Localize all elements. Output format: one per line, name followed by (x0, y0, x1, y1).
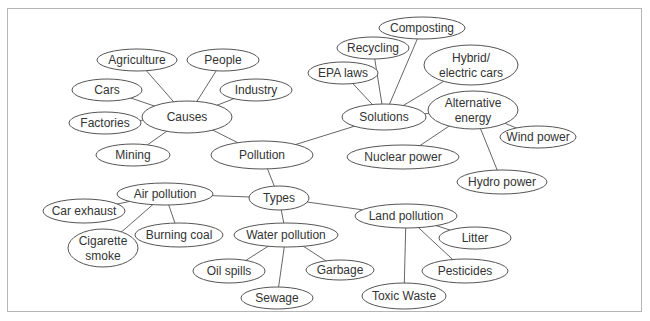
node-label: Pesticides (438, 264, 493, 278)
node-label: People (204, 53, 242, 67)
node-label: Solutions (359, 110, 408, 124)
node-epa-laws: EPA laws (308, 62, 378, 84)
node-toxic-waste: Toxic Waste (362, 283, 446, 309)
node-label: Wind power (506, 130, 569, 144)
node-label: Hydro power (468, 175, 536, 189)
node-label: Composting (390, 21, 454, 35)
node-label: Cigarette (79, 234, 128, 248)
node-causes: Causes (142, 101, 232, 133)
node-label: Sewage (255, 291, 299, 305)
node-label: Litter (462, 231, 489, 245)
nodes: PollutionCausesAgriculturePeopleCarsIndu… (43, 17, 576, 309)
node-label: smoke (85, 249, 121, 263)
node-label: Agriculture (108, 53, 166, 67)
node-alternative-energy: Alternativeenergy (428, 91, 518, 129)
concept-map: PollutionCausesAgriculturePeopleCarsIndu… (0, 0, 650, 321)
node-garbage: Garbage (306, 260, 374, 280)
node-mining: Mining (96, 144, 170, 166)
node-wind-power: Wind power (500, 126, 576, 148)
node-hybrid-cars: Hybrid/electric cars (424, 45, 518, 85)
node-car-exhaust: Car exhaust (43, 199, 125, 223)
node-types: Types (249, 186, 309, 210)
node-cigarette-smoke: Cigarettesmoke (68, 229, 138, 267)
node-label: Mining (115, 148, 150, 162)
node-label: Toxic Waste (372, 289, 437, 303)
node-label: Types (263, 191, 295, 205)
node-nuclear-power: Nuclear power (347, 145, 459, 169)
node-label: Land pollution (369, 209, 444, 223)
node-air-pollution: Air pollution (117, 183, 213, 205)
node-label: Industry (235, 83, 278, 97)
node-label: energy (455, 111, 492, 125)
node-oil-spills: Oil spills (193, 259, 265, 283)
node-pesticides: Pesticides (422, 259, 508, 283)
node-cars: Cars (72, 79, 142, 101)
node-composting: Composting (379, 17, 465, 39)
node-sewage: Sewage (241, 287, 313, 309)
node-label: Causes (167, 110, 208, 124)
node-land-pollution: Land pollution (355, 204, 457, 228)
node-industry: Industry (220, 79, 292, 101)
node-label: EPA laws (318, 66, 368, 80)
node-hydro-power: Hydro power (457, 170, 547, 194)
node-label: Water pollution (246, 228, 326, 242)
node-agriculture: Agriculture (97, 49, 177, 71)
node-solutions: Solutions (342, 104, 426, 130)
node-burning-coal: Burning coal (135, 223, 223, 247)
node-label: Alternative (445, 96, 502, 110)
node-label: Air pollution (134, 187, 197, 201)
node-people: People (187, 49, 259, 71)
node-recycling: Recycling (337, 37, 409, 59)
node-litter: Litter (439, 227, 511, 249)
node-water-pollution: Water pollution (234, 223, 338, 247)
node-label: Hybrid/ (452, 51, 491, 65)
node-label: Garbage (317, 263, 364, 277)
node-label: Nuclear power (364, 150, 441, 164)
node-label: Factories (80, 116, 129, 130)
node-label: Recycling (347, 41, 399, 55)
node-pollution: Pollution (211, 141, 313, 169)
node-label: Burning coal (146, 228, 213, 242)
node-label: Pollution (239, 148, 285, 162)
node-label: Cars (94, 83, 119, 97)
node-label: electric cars (439, 66, 503, 80)
node-label: Car exhaust (52, 204, 117, 218)
node-factories: Factories (69, 112, 141, 134)
node-label: Oil spills (207, 264, 252, 278)
